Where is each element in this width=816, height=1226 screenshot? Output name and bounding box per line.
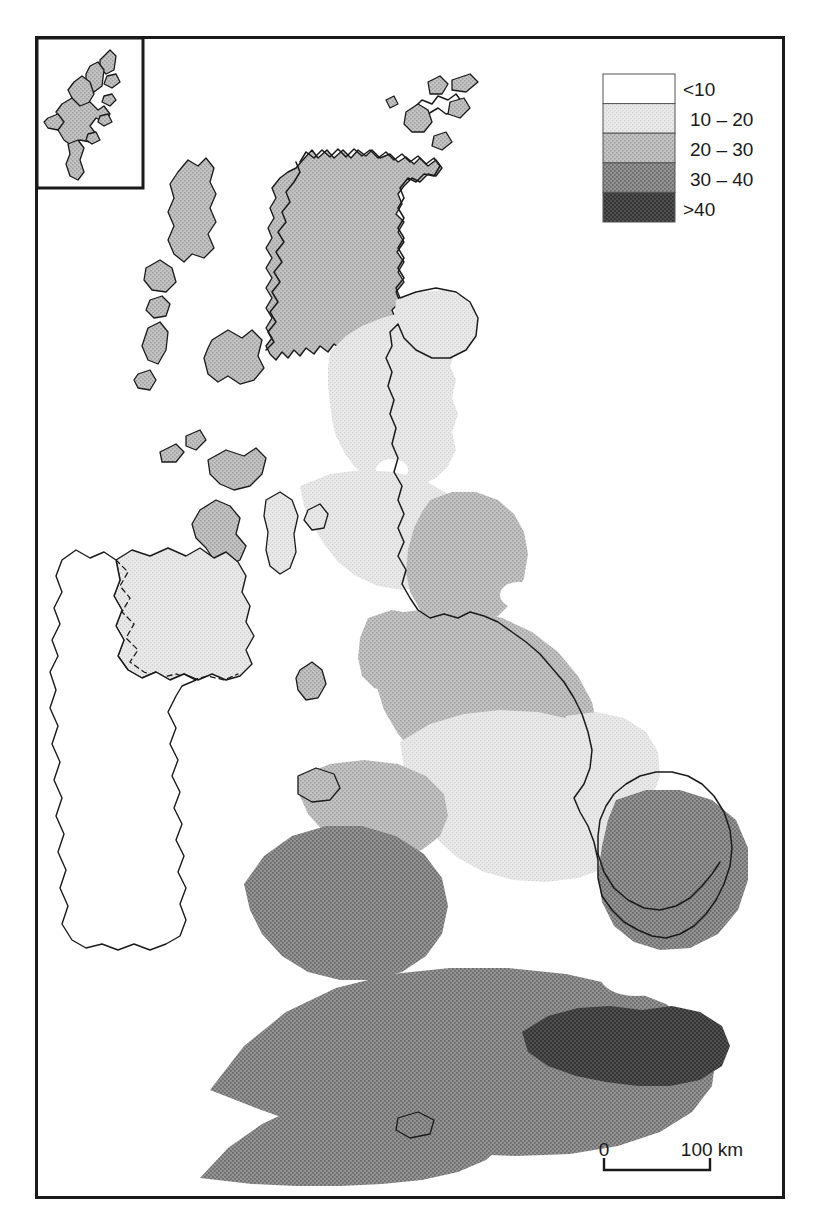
region-northern-ireland <box>114 548 254 680</box>
shetland-inset <box>37 38 143 188</box>
island-kintyre <box>264 492 298 574</box>
legend-label-2: 20 – 30 <box>690 139 753 160</box>
legend-swatch-3 <box>603 163 675 193</box>
legend-swatch-2 <box>603 133 675 163</box>
region-pocket-thames <box>600 956 672 996</box>
legend-swatch-0 <box>603 74 675 104</box>
legend-label-0: <10 <box>683 79 715 100</box>
legend-label-1: 10 – 20 <box>690 109 753 130</box>
uk-choropleth-map: <10 10 – 20 20 – 30 30 – 40 >40 0 100 km <box>0 0 816 1226</box>
legend-label-4: >40 <box>683 199 715 220</box>
map-figure: <10 10 – 20 20 – 30 30 – 40 >40 0 100 km <box>0 0 816 1226</box>
region-pocket-tyneside <box>500 582 536 608</box>
scale-bar-start-label: 0 <box>599 1139 610 1160</box>
legend-swatch-1 <box>603 104 675 134</box>
region-pocket-midlands <box>463 876 495 896</box>
scale-bar-end-label: 100 km <box>681 1139 743 1160</box>
legend-swatch-4 <box>603 192 675 222</box>
legend-label-3: 30 – 40 <box>690 169 753 190</box>
